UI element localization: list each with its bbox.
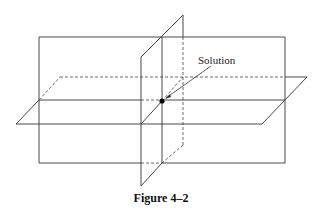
solution-point — [159, 98, 164, 103]
figure-caption: Figure 4–2 — [134, 191, 189, 205]
three-planes-diagram: Solution Figure 4–2 — [0, 0, 323, 211]
solution-label: Solution — [198, 54, 236, 66]
solution-pointer — [166, 66, 211, 98]
